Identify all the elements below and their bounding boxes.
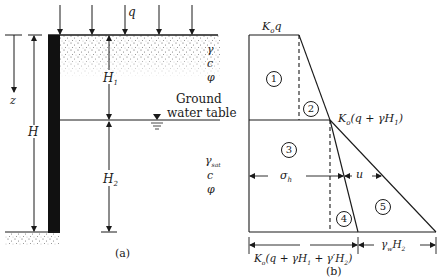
lower-phi-label: φ: [207, 184, 215, 195]
ground-water-table-label-line2: water table: [167, 107, 237, 119]
h2-label: H2: [103, 173, 118, 188]
total-height-label: H: [28, 126, 38, 138]
u-label: u: [356, 169, 363, 180]
upper-gamma-label: γ: [207, 44, 214, 55]
region-2-marker: 2: [303, 99, 319, 117]
region-4-marker: 4: [336, 209, 352, 227]
lateral-earth-pressure-diagram: [0, 0, 446, 280]
h1-label: H1: [103, 72, 118, 87]
h1-sub: 1: [113, 79, 117, 87]
surcharge-load-arrows: [60, 5, 192, 34]
bottom-right-dimension-label: γwH2: [381, 239, 405, 252]
region-5-marker: 5: [375, 197, 391, 215]
h2-symbol: H: [103, 172, 113, 186]
caption-a: (a): [115, 248, 130, 259]
ground-water-table-label-line1: Ground: [176, 93, 222, 105]
region-1-marker: 1: [266, 69, 282, 87]
upper-phi-label: φ: [207, 72, 215, 83]
water-table-triangle-icon: [151, 114, 163, 129]
sigma-h-label: σh: [280, 170, 292, 184]
region-3-marker: 3: [281, 140, 297, 158]
h1-symbol: H: [103, 71, 113, 85]
base-soil: [5, 233, 60, 245]
top-pressure-label: Koq: [262, 21, 281, 35]
mid-pressure-label: Ko(q + γH1): [338, 113, 403, 127]
caption-b: (b): [326, 266, 342, 277]
lower-gamma-sat-label: γsat: [205, 155, 221, 168]
retaining-wall: [48, 35, 60, 233]
depth-label: z: [10, 95, 16, 106]
h2-sub: 2: [113, 180, 117, 188]
lower-c-label: c: [207, 170, 213, 181]
surcharge-label: q: [128, 6, 136, 18]
upper-c-label: c: [207, 58, 213, 69]
